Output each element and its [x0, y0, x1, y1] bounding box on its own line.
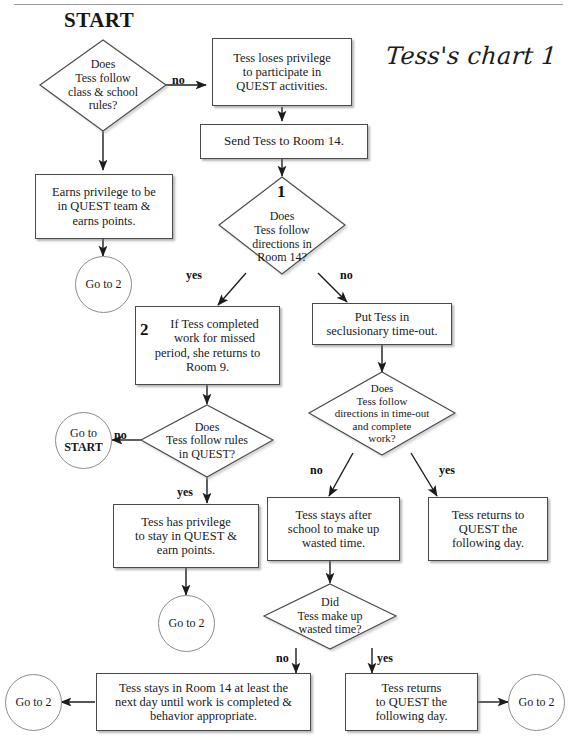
edge-label-no-4: no — [310, 463, 323, 478]
stays-after-line-2: school to make up — [288, 522, 379, 536]
has-priv-line-2: to stay in QUEST & — [135, 529, 237, 543]
decision-1-line-2: Tess follow — [68, 72, 138, 86]
decision-5-line-1: Did — [297, 596, 362, 610]
decision-4-line-3: directions in time-out — [335, 407, 430, 419]
put-tess-line-2: seclusionary time-out. — [326, 324, 437, 338]
returns-quest-line-1: Tess returns — [375, 681, 447, 695]
connector-go-to-2-bottom-left[interactable]: Go to 2 — [5, 674, 62, 731]
returns-day-line-1: Tess returns to — [452, 508, 525, 522]
connector-go-to-2-mid-left[interactable]: Go to 2 — [158, 595, 215, 652]
completed-line-4: Room 9. — [155, 360, 261, 374]
decision-3-text: Does Tess follow rules in QUEST? — [141, 405, 273, 477]
decision-did-tess-make-up-wasted-time[interactable]: Did Tess make up wasted time? — [264, 584, 396, 649]
edge-label-no-3: no — [114, 428, 127, 443]
connector-go-to-2-top-left[interactable]: Go to 2 — [75, 256, 132, 313]
earns-line-3: earns points. — [52, 214, 156, 228]
stays-after-line-1: Tess stays after — [288, 508, 379, 522]
decision-1-text: Does Tess follow class & school rules? — [40, 40, 166, 131]
decision-3-line-1: Does — [166, 421, 248, 435]
connector-go-to-start[interactable]: Go to START — [55, 412, 112, 469]
decision-2-line-2: Tess follow — [252, 224, 312, 238]
edge-label-yes-4: yes — [377, 651, 393, 666]
process-if-tess-completed-work[interactable]: If Tess completed work for missed period… — [135, 306, 280, 385]
decision-1-line-4: rules? — [68, 99, 138, 113]
loses-line-2: to participate in — [233, 65, 331, 79]
decision-1-line-1: Does — [68, 58, 138, 72]
decision-2-line-3: directions in — [252, 238, 312, 252]
stays-room14-line-3: behavior appropriate. — [115, 709, 292, 723]
decision-does-tess-follow-class-school-rules[interactable]: Does Tess follow class & school rules? — [40, 40, 166, 131]
stays-room14-line-1: Tess stays in Room 14 at least the — [115, 681, 292, 695]
decision-4-line-5: work? — [335, 432, 430, 444]
decision-does-tess-follow-rules-in-quest[interactable]: Does Tess follow rules in QUEST? — [141, 405, 273, 477]
edge-label-yes-1: yes — [186, 268, 202, 283]
decision-4-line-1: Does — [335, 382, 430, 394]
decision-1-line-3: class & school — [68, 86, 138, 100]
decision-3-line-2: Tess follow rules — [166, 434, 248, 448]
returns-day-line-3: following day. — [452, 536, 525, 550]
edge-label-yes-2: yes — [177, 485, 193, 500]
completed-line-1: If Tess completed — [169, 317, 261, 331]
returns-day-line-2: QUEST the — [452, 522, 525, 536]
loses-line-1: Tess loses privilege — [233, 51, 331, 65]
has-priv-line-3: earn points. — [135, 543, 237, 557]
step-tag-1: 1 — [277, 182, 286, 202]
flowchart-page: START Tess's chart 1 — [0, 0, 571, 742]
go-to-2-label-c: Go to 2 — [16, 696, 52, 710]
decision-does-tess-follow-directions-timeout[interactable]: Does Tess follow directions in time-out … — [309, 372, 455, 455]
completed-line-2: work for missed — [169, 331, 261, 345]
process-put-tess-in-seclusionary-time-out[interactable]: Put Tess in seclusionary time-out. — [312, 303, 452, 345]
stays-room14-line-2: next day until work is completed & — [115, 695, 292, 709]
edge-label-no-1: no — [172, 73, 185, 88]
decision-5-text: Did Tess make up wasted time? — [264, 584, 396, 649]
process-earns-privilege[interactable]: Earns privilege to be in QUEST team & ea… — [35, 174, 173, 239]
process-tess-returns-to-quest-following-day-lower[interactable]: Tess returns to QUEST the following day. — [345, 673, 478, 731]
process-tess-stays-in-room-14[interactable]: Tess stays in Room 14 at least the next … — [96, 673, 311, 731]
go-to-2-label-b: Go to 2 — [169, 617, 205, 631]
edge-label-yes-3: yes — [439, 463, 455, 478]
has-priv-line-1: Tess has privilege — [135, 515, 237, 529]
put-tess-line-1: Put Tess in — [326, 310, 437, 324]
decision-5-line-3: wasted time? — [297, 623, 362, 637]
returns-quest-line-2: to QUEST the — [375, 695, 447, 709]
connector-go-to-2-bottom-right[interactable]: Go to 2 — [508, 674, 565, 731]
edge-label-no-5: no — [276, 651, 289, 666]
decision-2-line-1: Does — [252, 210, 312, 224]
process-tess-has-privilege[interactable]: Tess has privilege to stay in QUEST & ea… — [113, 504, 259, 568]
stays-after-line-3: wasted time. — [288, 536, 379, 550]
completed-line-3: period, she returns to — [155, 346, 261, 360]
decision-4-text: Does Tess follow directions in time-out … — [309, 372, 455, 455]
loses-line-3: QUEST activities. — [233, 79, 331, 93]
edge-label-no-2: no — [340, 268, 353, 283]
go-to-start-line-2: START — [64, 441, 103, 455]
go-to-2-label-a: Go to 2 — [86, 278, 122, 292]
decision-4-line-4: and complete — [335, 420, 430, 432]
process-tess-returns-to-quest-following-day-upper[interactable]: Tess returns to QUEST the following day. — [428, 497, 548, 561]
returns-quest-line-3: following day. — [375, 709, 447, 723]
decision-2-line-4: Room 14? — [252, 251, 312, 265]
process-tess-loses-privilege[interactable]: Tess loses privilege to participate in Q… — [212, 38, 352, 106]
process-send-tess-to-room-14[interactable]: Send Tess to Room 14. — [200, 124, 368, 159]
decision-3-line-3: in QUEST? — [166, 448, 248, 462]
earns-line-1: Earns privilege to be — [52, 185, 156, 199]
decision-5-line-2: Tess make up — [297, 610, 362, 624]
send-line-1: Send Tess to Room 14. — [224, 134, 344, 149]
decision-4-line-2: Tess follow — [335, 395, 430, 407]
process-tess-stays-after-school[interactable]: Tess stays after school to make up waste… — [267, 497, 400, 561]
earns-line-2: in QUEST team & — [52, 199, 156, 213]
step-tag-2: 2 — [140, 320, 149, 340]
go-to-2-label-d: Go to 2 — [519, 696, 555, 710]
go-to-start-line-1: Go to — [64, 427, 103, 441]
